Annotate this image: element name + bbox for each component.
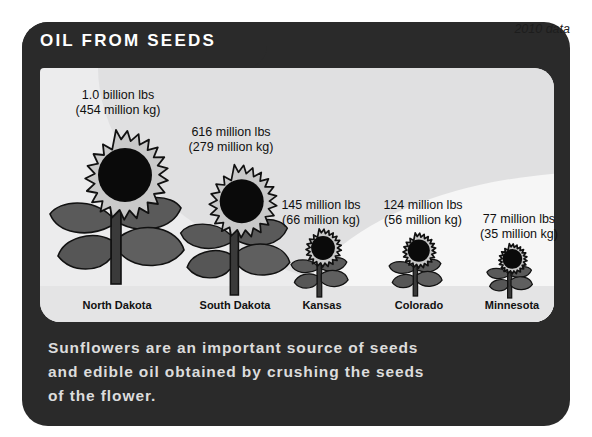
sunflower-icon-south-dakota	[178, 163, 294, 295]
state-label-south-dakota: South Dakota	[180, 299, 290, 311]
seed-center	[503, 249, 523, 269]
infographic-root: OIL FROM SEEDS 2010 data 1.0 billion lbs…	[0, 0, 592, 437]
value-label-lbs: 1.0 billion lbs	[58, 88, 178, 103]
value-label-lbs: 77 million lbs	[464, 212, 574, 227]
sunflower-icon	[48, 128, 188, 290]
value-label-kg: (56 million kg)	[366, 213, 480, 228]
value-label-north-dakota: 1.0 billion lbs (454 million kg)	[58, 88, 178, 118]
value-label-lbs: 145 million lbs	[264, 198, 378, 213]
caption-line: and edible oil obtained by crushing the …	[48, 360, 548, 384]
value-label-lbs: 124 million lbs	[366, 198, 480, 213]
value-label-south-dakota: 616 million lbs (279 million kg)	[172, 125, 290, 155]
sunflower-icon-north-dakota	[48, 128, 188, 290]
value-label-minnesota: 77 million lbs (35 million kg)	[464, 212, 574, 242]
sunflower-icon-kansas	[290, 228, 350, 297]
sunflower-icon-colorado	[388, 232, 444, 296]
state-label-minnesota: Minnesota	[472, 299, 552, 311]
value-label-kg: (66 million kg)	[264, 213, 378, 228]
sunflower-icon	[388, 232, 444, 296]
seed-center	[408, 240, 430, 262]
page-title: OIL FROM SEEDS	[40, 31, 216, 51]
caption-line: Sunflowers are an important source of se…	[48, 336, 548, 360]
sunflower-icon-minnesota	[486, 243, 534, 298]
value-label-kg: (35 million kg)	[464, 227, 574, 242]
value-label-lbs: 616 million lbs	[172, 125, 290, 140]
sunflower-icon	[290, 228, 350, 297]
value-label-kg: (454 million kg)	[58, 103, 178, 118]
sunflower-icon	[178, 163, 294, 295]
state-label-north-dakota: North Dakota	[62, 299, 172, 311]
sunflower-icon	[486, 243, 534, 298]
data-year-note: 2010 data	[514, 22, 570, 36]
seed-center	[311, 236, 335, 260]
state-label-kansas: Kansas	[290, 299, 354, 311]
state-label-colorado: Colorado	[383, 299, 455, 311]
value-label-kg: (279 million kg)	[172, 140, 290, 155]
caption-line: of the flower.	[48, 384, 548, 408]
caption-block: Sunflowers are an important source of se…	[48, 336, 548, 408]
value-label-kansas: 145 million lbs (66 million kg)	[264, 198, 378, 228]
seed-center	[98, 148, 152, 202]
seed-center	[220, 179, 264, 223]
value-label-colorado: 124 million lbs (56 million kg)	[366, 198, 480, 228]
